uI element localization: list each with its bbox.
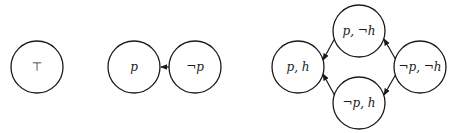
node-label-p-not-h: p, ¬h (342, 24, 375, 38)
node-label-not-p: ¬p (186, 60, 204, 74)
node-label-p-h: p, h (286, 60, 309, 74)
edge-not-p-not-h-to-p-not-h (384, 39, 396, 60)
node-not-p: ¬p (169, 41, 221, 93)
node-label-top: ⊤ (32, 60, 42, 74)
node-p-not-h: p, ¬h (333, 5, 385, 57)
node-not-p-h: ¬p, h (333, 77, 385, 129)
node-p-h: p, h (272, 41, 324, 93)
edge-p-not-h-to-p-h (323, 38, 335, 60)
node-p: p (108, 41, 160, 93)
node-label-p: p (130, 60, 138, 74)
diagram-2: p ¬p (108, 41, 221, 93)
diagram-1: ⊤ (11, 41, 63, 93)
node-not-p-not-h: ¬p, ¬h (394, 41, 446, 93)
diagram-3: p, h p, ¬h ¬p, h ¬p, ¬h (272, 5, 446, 129)
node-label-not-p-h: ¬p, h (342, 96, 375, 110)
diagram-canvas: ⊤ p ¬p p, h p, ¬h ¬p, h (0, 0, 463, 133)
node-top: ⊤ (11, 41, 63, 93)
node-label-not-p-not-h: ¬p, ¬h (398, 60, 441, 74)
edge-not-p-h-to-p-h (323, 74, 335, 96)
edge-not-p-not-h-to-not-p-h (384, 74, 396, 95)
